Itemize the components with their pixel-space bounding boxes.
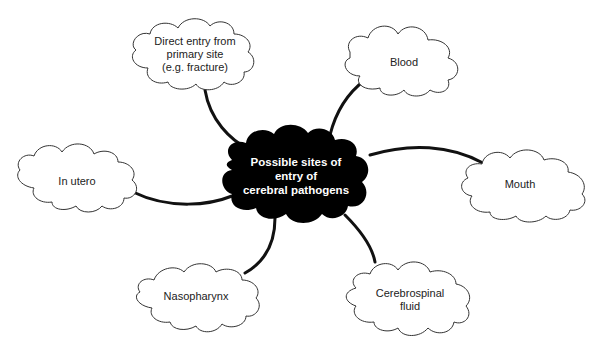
direct-entry-line-1: Direct entry from bbox=[154, 35, 235, 48]
connector-csf bbox=[345, 215, 375, 262]
connector-blood bbox=[330, 80, 365, 135]
blood-line-1: Blood bbox=[390, 56, 418, 69]
connector-nasopharynx bbox=[245, 218, 275, 273]
central-label-line-2: entry of bbox=[243, 169, 349, 183]
nasopharynx-line-1: Nasopharynx bbox=[164, 290, 229, 303]
connector-mouth bbox=[370, 147, 483, 163]
connector-in-utero bbox=[133, 192, 232, 204]
central-node-label: Possible sites of entry of cerebral path… bbox=[243, 155, 349, 197]
csf-line-2: fluid bbox=[376, 300, 444, 313]
node-blood-label: Blood bbox=[390, 56, 418, 69]
in-utero-line-1: In utero bbox=[58, 175, 95, 188]
direct-entry-line-3: (e.g. fracture) bbox=[154, 61, 235, 74]
node-mouth-label: Mouth bbox=[505, 178, 536, 191]
node-nasopharynx-label: Nasopharynx bbox=[164, 290, 229, 303]
central-label-line-1: Possible sites of bbox=[243, 155, 349, 169]
csf-line-1: Cerebrospinal bbox=[376, 287, 444, 300]
direct-entry-line-2: primary site bbox=[154, 48, 235, 61]
node-in-utero-label: In utero bbox=[58, 175, 95, 188]
mouth-line-1: Mouth bbox=[505, 178, 536, 191]
connector-direct-entry bbox=[205, 90, 250, 150]
node-direct-entry-label: Direct entry from primary site (e.g. fra… bbox=[154, 35, 235, 74]
node-csf-label: Cerebrospinal fluid bbox=[376, 287, 444, 313]
central-label-line-3: cerebral pathogens bbox=[243, 183, 349, 197]
